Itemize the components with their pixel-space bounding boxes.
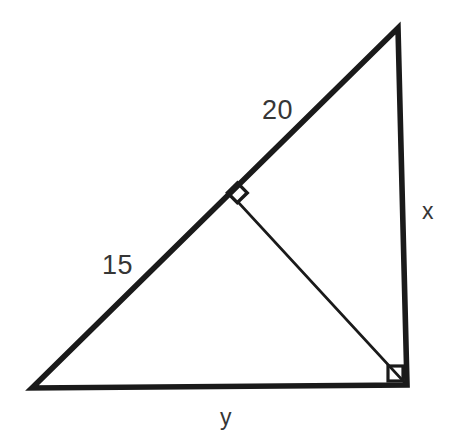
hypotenuse-lower-label: 15 — [102, 252, 133, 279]
triangle-outline — [32, 28, 407, 388]
vertical-leg-label: x — [422, 200, 434, 223]
triangle-diagram-svg — [0, 0, 458, 445]
hypotenuse-upper-label: 20 — [262, 97, 293, 124]
horizontal-leg-label: y — [220, 406, 232, 429]
geometry-figure: 20 15 x y — [0, 0, 458, 445]
altitude-segment — [238, 202, 405, 383]
